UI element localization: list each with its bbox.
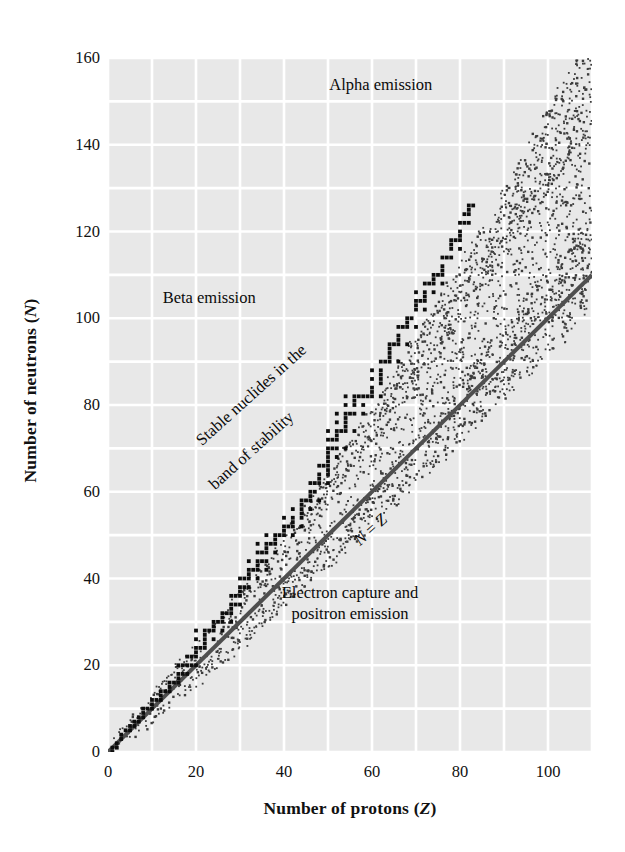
y-axis-title: Number of neutrons (N)	[20, 211, 41, 571]
n-equals-z-line	[108, 275, 592, 752]
x-tick-label: 0	[78, 764, 138, 781]
stable-nuclide-points	[111, 204, 476, 752]
x-axis-tick-labels: 020406080100	[0, 764, 625, 788]
y-tick-label: 60	[52, 484, 100, 501]
x-axis-title-symbol: Z	[420, 798, 431, 818]
y-tick-label: 0	[52, 744, 100, 761]
x-tick-label: 60	[342, 764, 402, 781]
annotation-beta-emission: Beta emission	[163, 287, 256, 306]
gridlines	[108, 58, 592, 752]
y-axis-title-text: Number of neutrons (	[20, 317, 40, 482]
plot-canvas	[108, 58, 592, 752]
x-axis-title: Number of protons (Z)	[108, 798, 592, 819]
y-tick-label: 100	[52, 310, 100, 327]
y-tick-label: 140	[52, 137, 100, 154]
y-axis-title-symbol: N	[20, 304, 40, 317]
plot-area: Alpha emission Beta emission Stable nucl…	[108, 58, 592, 752]
x-tick-label: 40	[254, 764, 314, 781]
y-tick-label: 20	[52, 657, 100, 674]
y-axis-tick-labels: 020406080100120140160	[48, 0, 100, 852]
annotation-electron-capture-line2: positron emission	[292, 604, 409, 623]
x-tick-label: 100	[518, 764, 578, 781]
band-of-stability-figure: Number of neutrons (N) 02040608010012014…	[0, 0, 625, 852]
y-axis-title-close: )	[20, 298, 40, 304]
annotation-electron-capture-line1: Electron capture and	[282, 582, 419, 601]
x-tick-label: 20	[166, 764, 226, 781]
x-axis-title-text: Number of protons (	[263, 798, 419, 818]
x-axis-title-close: )	[431, 798, 437, 818]
y-tick-label: 120	[52, 224, 100, 241]
y-tick-label: 40	[52, 571, 100, 588]
annotation-alpha-emission: Alpha emission	[329, 75, 432, 94]
y-tick-label: 160	[52, 50, 100, 67]
y-tick-label: 80	[52, 397, 100, 414]
x-tick-label: 80	[430, 764, 490, 781]
